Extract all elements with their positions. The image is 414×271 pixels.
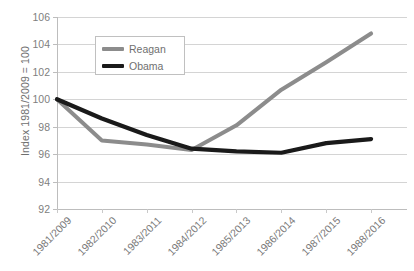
x-tick-mark — [371, 209, 372, 213]
x-tick-label: 1984/2012 — [165, 214, 209, 258]
x-tick-label: 1986/2014 — [254, 214, 298, 258]
cut-off-caption — [0, 264, 414, 271]
x-tick-label: 1982/2010 — [75, 214, 119, 258]
legend-label-obama: Obama — [129, 60, 163, 72]
x-tick-label: 1983/2011 — [120, 214, 163, 257]
x-tick-mark — [147, 209, 148, 213]
legend-swatch-reagan — [102, 47, 124, 51]
x-tick-mark — [236, 209, 237, 213]
x-tick-mark — [192, 209, 193, 213]
line-chart: Index 1981/2009 = 100 929496981001021041… — [0, 0, 414, 271]
x-tick-mark — [326, 209, 327, 213]
x-tick-label: 1987/2015 — [299, 214, 343, 258]
legend-item-reagan: Reagan — [102, 43, 166, 55]
legend-label-reagan: Reagan — [129, 43, 166, 55]
x-tick-mark — [281, 209, 282, 213]
x-tick-label: 1988/2016 — [344, 214, 388, 258]
x-tick-label: 1981/2009 — [30, 214, 74, 258]
x-axis-tick-labels: 1981/20091982/20101983/20111984/20121985… — [0, 0, 414, 271]
chart-legend: Reagan Obama — [95, 36, 185, 75]
legend-item-obama: Obama — [102, 60, 163, 72]
x-tick-mark — [57, 209, 58, 213]
legend-swatch-obama — [102, 64, 124, 68]
x-tick-label: 1985/2013 — [209, 214, 253, 258]
x-tick-mark — [102, 209, 103, 213]
